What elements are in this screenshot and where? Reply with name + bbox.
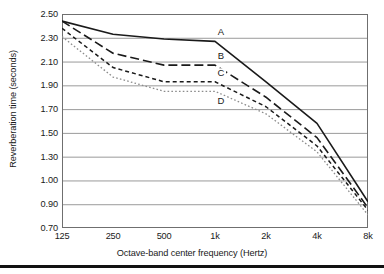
series-line-B [62,21,368,208]
frame-rect [63,15,368,228]
y-tick-1-70: 1.70 [24,104,58,114]
series-label-D: D [216,97,226,107]
x-tick-500: 500 [157,231,172,241]
series-label-B: B [216,51,225,61]
series-label-A: A [216,28,225,38]
plot-frame [63,15,368,228]
y-tick-2-10: 2.10 [24,57,58,67]
x-tick-125: 125 [55,231,70,241]
x-axis-tick-labels: 1252505001k2k4k8k [0,231,384,245]
y-tick-0-90: 0.90 [24,199,58,209]
series-label-C: C [216,68,226,78]
x-tick-4k: 4k [312,231,321,241]
x-tick-1k: 1k [210,231,219,241]
plot-area [62,14,368,228]
y-axis-title: Reverberation time (seconds) [8,19,18,199]
x-axis-title: Octave-band center frequency (Hertz) [0,248,384,258]
y-tick-1-30: 1.30 [24,152,58,162]
grid-lines [62,15,368,229]
x-tick-8k: 8k [363,231,372,241]
series-line-C [62,28,368,210]
reverberation-time-chart: Reverberation time (seconds) 2.502.302.1… [0,0,384,274]
x-tick-2k: 2k [261,231,270,241]
series-line-A [62,21,368,202]
x-tick-250: 250 [106,231,121,241]
y-tick-1-90: 1.90 [24,80,58,90]
y-tick-2-30: 2.30 [24,33,58,43]
y-tick-2-50: 2.50 [24,9,58,19]
plot-svg [62,14,368,228]
y-tick-1-50: 1.50 [24,128,58,138]
bottom-rule [0,265,384,268]
data-series-group [62,21,368,215]
y-tick-1-00: 1.00 [24,175,58,185]
